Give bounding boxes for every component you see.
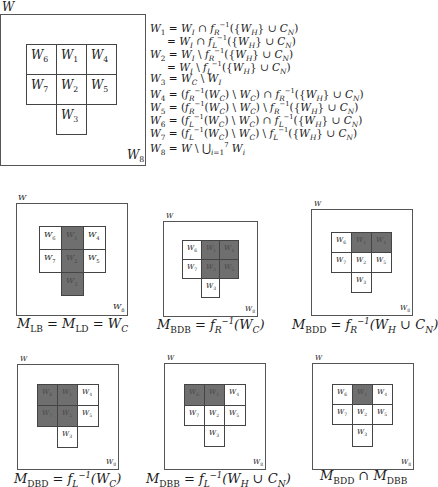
equation-w8: W8 = W \ ⋃i=17 Wi [150,140,245,158]
cell-w4: W4 [219,240,239,260]
cell-w5: W5 [372,404,393,425]
cell-w4: W4 [371,232,392,253]
main-w-label: W [2,0,14,14]
cell-w2: W2 [351,252,372,273]
cell-w5: W5 [224,405,246,426]
cell-w6: W6 [332,384,353,405]
main-cell-w5: W5 [86,74,117,105]
caption-mdbd: MDBD = fL−1(WC) [14,470,121,487]
cell-w1: W1 [57,384,78,406]
panel-w8-label: W8 [245,305,255,314]
cell-w5: W5 [83,249,106,273]
main-cell-w4: W4 [86,44,117,75]
cell-w1: W1 [201,240,220,260]
panel-w-label: W [167,354,174,362]
cell-w7: W7 [37,405,58,427]
cell-w3: W3 [61,272,84,296]
main-cell-w1: W1 [56,44,87,75]
cell-w3: W3 [201,278,220,298]
panel-w-label: W [166,212,173,220]
cell-w6: W6 [39,226,62,250]
cell-w4: W4 [224,384,246,406]
cell-w1: W1 [352,384,373,405]
panel-w8-label: W8 [106,458,116,467]
cell-w3: W3 [204,425,225,447]
cell-w2: W2 [204,405,225,426]
cell-w6: W6 [37,384,58,406]
panel-w-label: W [314,200,321,208]
panel-w8-label: W8 [113,302,125,313]
cell-w2: W2 [352,404,373,425]
cell-w3: W3 [352,424,373,447]
cell-w6: W6 [184,384,205,406]
cell-w1: W1 [351,232,372,253]
cell-w5: W5 [77,405,99,427]
cell-w7: W7 [331,252,352,273]
main-cell-w7: W7 [26,74,57,105]
panel-w-label: W [315,354,322,362]
cell-w6: W6 [331,232,352,253]
main-w8-label: W8 [127,148,144,164]
panel-w8-label: W8 [401,458,411,467]
cell-w4: W4 [372,384,393,405]
caption-mdbb: MDBB = fL−1(WH ∪ CN) [146,470,291,487]
cell-w5: W5 [219,259,239,279]
cell-w1: W1 [204,384,225,406]
cell-w3: W3 [351,272,372,293]
main-cell-w2: W2 [56,74,87,105]
cell-w4: W4 [83,226,106,250]
panel-w-label: W [18,193,26,202]
panel-w-label: W [20,355,27,363]
panel-w8-label: W8 [253,458,263,467]
cell-w7: W7 [182,259,202,279]
caption-mbdd: MBDD = fR−1(WH ∪ CN) [292,316,438,335]
cell-w4: W4 [77,384,99,406]
cell-w2: W2 [61,249,84,273]
cell-w2: W2 [57,405,78,427]
cell-w7: W7 [39,249,62,273]
main-cell-w6: W6 [26,44,57,75]
cell-w1: W1 [61,226,84,250]
caption-intersection: MBDD ∩ MDBB [320,468,407,486]
caption-mlb: MLB = MLD = WC [17,316,128,334]
cell-w5: W5 [371,252,392,273]
panel-w8-label: W8 [400,304,410,313]
main-cell-w3: W3 [56,104,87,135]
cell-w7: W7 [332,404,353,425]
cell-w3: W3 [57,426,78,448]
caption-mbdb: MBDB = fR−1(WC) [157,316,265,335]
cell-w2: W2 [201,259,220,279]
cell-w7: W7 [184,405,205,426]
cell-w6: W6 [182,240,202,260]
